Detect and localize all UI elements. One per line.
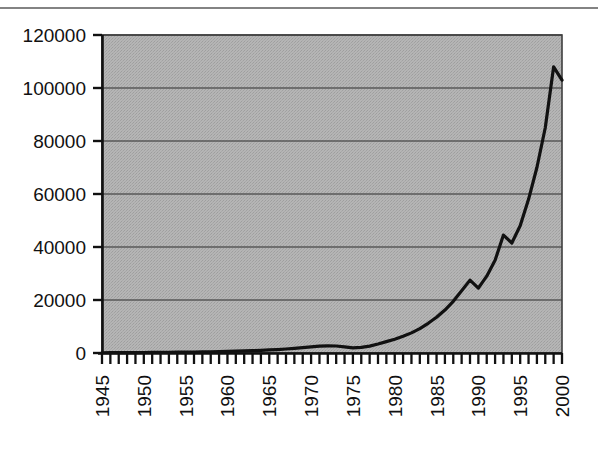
y-tick-label: 120000 xyxy=(23,25,86,46)
y-tick-label: 20000 xyxy=(33,290,86,311)
line-chart: 020000400006000080000100000120000 194519… xyxy=(0,0,598,451)
x-tick-label: 1980 xyxy=(385,375,406,417)
y-tick-label: 80000 xyxy=(33,131,86,152)
x-tick-label: 1985 xyxy=(427,375,448,417)
x-tick-label: 2000 xyxy=(552,375,573,417)
y-tick-label: 60000 xyxy=(33,184,86,205)
x-tick-label: 1945 xyxy=(92,375,113,417)
x-tick-label: 1990 xyxy=(468,375,489,417)
x-tick-label: 1965 xyxy=(259,375,280,417)
y-tick-label: 40000 xyxy=(33,237,86,258)
x-tick-label: 1960 xyxy=(217,375,238,417)
x-axis-labels: 1945195019551960196519701975198019851990… xyxy=(92,375,573,417)
x-tick-label: 1970 xyxy=(301,375,322,417)
x-tick-label: 1975 xyxy=(343,375,364,417)
x-tick-label: 1950 xyxy=(134,375,155,417)
y-tick-label: 0 xyxy=(75,343,86,364)
x-tick-label: 1955 xyxy=(176,375,197,417)
x-tick-label: 1995 xyxy=(510,375,531,417)
y-axis: 020000400006000080000100000120000 xyxy=(23,25,102,364)
chart-figure: 020000400006000080000100000120000 194519… xyxy=(0,0,598,451)
y-tick-label: 100000 xyxy=(23,78,86,99)
